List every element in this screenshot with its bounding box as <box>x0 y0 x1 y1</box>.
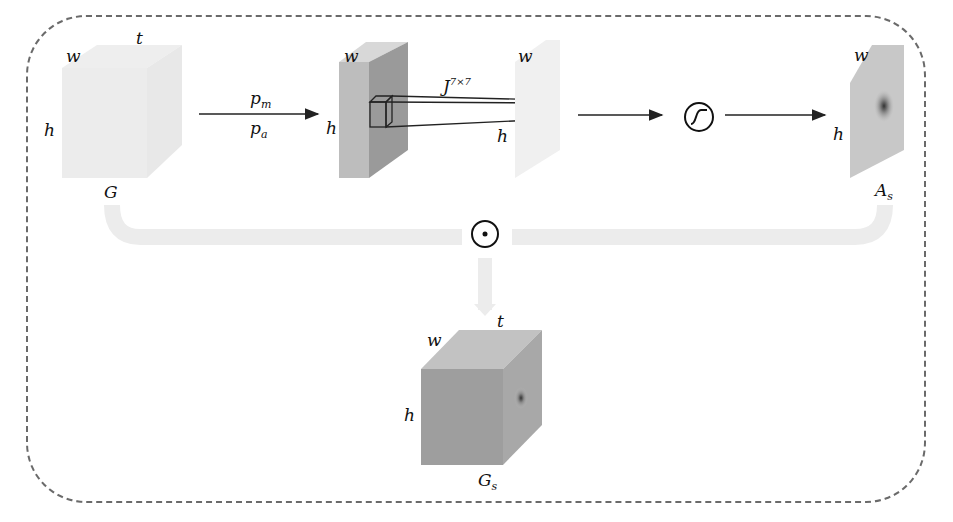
input-h-label: h <box>44 120 55 140</box>
output-feature-cube <box>421 330 542 465</box>
attention-As-label: As <box>875 180 893 203</box>
conv-out-h-label: h <box>497 126 508 146</box>
diagram-canvas <box>0 0 953 522</box>
attention-w-label: w <box>854 45 869 65</box>
input-t-label: t <box>136 28 143 48</box>
output-t-label: t <box>497 311 504 331</box>
max-pool-label: pm <box>250 88 271 111</box>
input-w-label: w <box>66 46 81 66</box>
attention-path-right <box>512 205 885 237</box>
skip-connection-left <box>112 205 462 237</box>
input-G-label: G <box>104 182 118 202</box>
avg-pool-label: pa <box>250 118 267 141</box>
conv-kernel-label: J7×7 <box>443 76 471 96</box>
output-Gs-label: Gs <box>478 470 497 493</box>
attention-h-label: h <box>833 124 844 144</box>
pooled-h-label: h <box>326 118 337 138</box>
sigmoid-icon <box>685 103 713 131</box>
conv-out-w-label: w <box>518 46 533 66</box>
pooled-w-label: w <box>344 46 359 66</box>
elementwise-multiply-icon <box>472 221 498 247</box>
output-h-label: h <box>404 405 415 425</box>
output-w-label: w <box>427 330 442 350</box>
